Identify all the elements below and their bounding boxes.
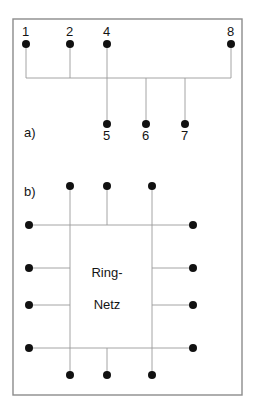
part-b-bottom-node-0 xyxy=(66,371,74,379)
part-b-bottom-node-2 xyxy=(148,371,156,379)
node-label-5: 5 xyxy=(103,128,110,143)
part-a-label: a) xyxy=(24,125,36,140)
ring-netz-label-line2: Netz xyxy=(94,297,121,312)
part-b-bottom-node-1 xyxy=(103,371,111,379)
node-label-2: 2 xyxy=(66,24,73,39)
part-b-left-node-1 xyxy=(25,264,33,272)
figure-root: 1248567 a) b) Ring- Netz xyxy=(0,0,255,415)
part-b-left-node-3 xyxy=(25,344,33,352)
part-b-top-node-1 xyxy=(103,182,111,190)
node-6 xyxy=(142,120,150,128)
node-7 xyxy=(181,120,189,128)
part-b-left-node-0 xyxy=(25,221,33,229)
node-label-8: 8 xyxy=(227,24,234,39)
part-b-right-node-2 xyxy=(189,301,197,309)
node-label-7: 7 xyxy=(181,128,188,143)
part-b-top-node-2 xyxy=(148,182,156,190)
node-1 xyxy=(22,40,30,48)
part-b-left-node-2 xyxy=(25,301,33,309)
network-diagram-svg: 1248567 a) b) Ring- Netz xyxy=(0,0,255,415)
part-b-top-node-0 xyxy=(66,182,74,190)
node-label-4: 4 xyxy=(103,24,110,39)
node-8 xyxy=(227,40,235,48)
node-label-6: 6 xyxy=(142,128,149,143)
ring-netz-label-line1: Ring- xyxy=(91,265,122,280)
part-b-right-node-1 xyxy=(189,264,197,272)
node-4 xyxy=(103,40,111,48)
node-2 xyxy=(66,40,74,48)
node-label-1: 1 xyxy=(22,24,29,39)
node-5 xyxy=(103,120,111,128)
part-b-right-node-3 xyxy=(189,344,197,352)
figure-background xyxy=(0,0,255,415)
part-b-label: b) xyxy=(24,184,36,199)
part-b-right-node-0 xyxy=(189,221,197,229)
